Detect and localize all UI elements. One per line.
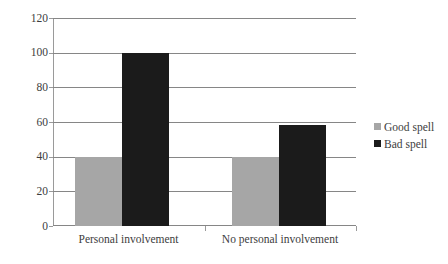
bar-bad-spell-no-personal-involvement — [279, 125, 326, 226]
y-tick-mark-0 — [49, 226, 53, 227]
x-category-label-no-personal-involvement: No personal involvement — [204, 232, 356, 246]
x-tick-mark-end — [356, 226, 357, 231]
y-tick-label-20: 20 — [8, 186, 48, 198]
y-tick-label-100: 100 — [8, 47, 48, 59]
legend-swatch-good-spell-icon — [374, 123, 381, 130]
plot-area — [53, 18, 356, 226]
bar-chart: 120 100 80 60 40 20 0 Personal involveme… — [0, 0, 448, 264]
legend-entry-good-spell: Good spell — [374, 118, 448, 135]
y-tick-label-120: 120 — [8, 13, 48, 25]
bar-bad-spell-personal-involvement — [122, 53, 169, 226]
y-tick-label-60: 60 — [8, 117, 48, 129]
legend-label-bad-spell: Bad spell — [384, 138, 427, 150]
legend-entry-bad-spell: Bad spell — [374, 135, 448, 152]
x-axis-category-labels: Personal involvement No personal involve… — [53, 232, 356, 256]
y-axis-tick-labels: 120 100 80 60 40 20 0 — [0, 0, 48, 264]
bar-good-spell-personal-involvement — [75, 157, 122, 226]
legend-label-good-spell: Good spell — [384, 121, 434, 133]
x-tick-mark-group-divider — [205, 226, 206, 231]
gridline-120 — [53, 18, 356, 19]
y-tick-label-80: 80 — [8, 82, 48, 94]
y-tick-label-0: 0 — [8, 221, 48, 233]
bar-good-spell-no-personal-involvement — [232, 157, 279, 226]
gridline-100 — [53, 53, 356, 54]
gridline-80 — [53, 87, 356, 88]
x-category-label-personal-involvement: Personal involvement — [53, 232, 204, 246]
chart-legend: Good spell Bad spell — [374, 118, 448, 152]
gridline-60 — [53, 122, 356, 123]
legend-swatch-bad-spell-icon — [374, 140, 381, 147]
y-tick-label-40: 40 — [8, 151, 48, 163]
